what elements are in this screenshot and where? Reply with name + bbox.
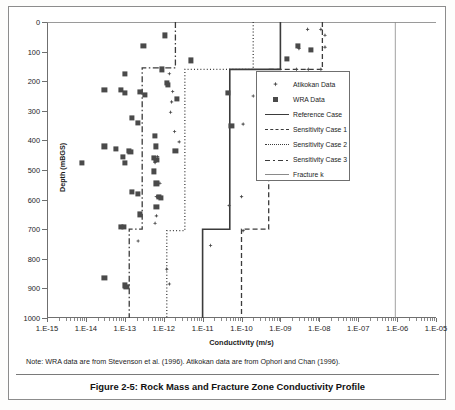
- x-tick-minor: [109, 318, 110, 321]
- square-marker: [264, 94, 290, 105]
- wra-data-point: [129, 116, 134, 121]
- y-tick-label: 700: [28, 225, 40, 234]
- wra-data-point: [142, 92, 147, 97]
- diamond-marker-glyph: [273, 82, 278, 87]
- x-tick-label: 1.E-11: [192, 324, 214, 333]
- x-tick-minor: [253, 318, 254, 321]
- y-tick-label: 200: [28, 77, 40, 86]
- x-tick: [125, 318, 126, 322]
- dotted-line-glyph: [265, 144, 289, 145]
- x-tick-minor: [354, 318, 355, 321]
- legend-item-fracture-k: Fracture k: [257, 167, 349, 182]
- x-tick-minor: [98, 318, 99, 321]
- wra-data-point: [159, 67, 164, 72]
- figure-caption: Figure 2-5: Rock Mass and Fracture Zone …: [16, 381, 439, 392]
- x-tick-minor: [391, 318, 392, 321]
- wra-data-point: [121, 224, 126, 229]
- x-tick-label: 1.E-05: [425, 324, 447, 333]
- wra-data-point: [136, 120, 141, 125]
- x-tick-minor: [226, 318, 227, 321]
- x-tick-minor: [269, 318, 270, 321]
- step-curve-sensitivity-case-2: [167, 22, 253, 318]
- wra-data-point: [188, 58, 193, 63]
- diamond-marker: [264, 79, 290, 90]
- x-tick-minor: [182, 318, 183, 321]
- x-tick-minor: [66, 318, 67, 321]
- x-tick-minor: [331, 318, 332, 321]
- x-tick-minor: [175, 318, 176, 321]
- wra-data-point: [120, 154, 125, 159]
- wra-data-point: [308, 48, 313, 53]
- y-tick-label: 1000: [24, 314, 40, 323]
- legend-label: Fracture k: [290, 171, 324, 178]
- dash-dot-line-glyph: [265, 159, 289, 161]
- x-tick-minor: [377, 318, 378, 321]
- x-tick-minor: [382, 318, 383, 321]
- x-tick-minor: [113, 318, 114, 321]
- x-tick-label: 1.E-08: [308, 324, 330, 333]
- x-tick-minor: [274, 318, 275, 321]
- x-tick: [203, 318, 204, 322]
- legend-item-sensitivity-case-2: Sensitivity Case 2: [257, 137, 349, 152]
- y-tick-label: 500: [28, 166, 40, 175]
- solid-line-glyph: [265, 114, 289, 115]
- x-tick-minor: [194, 318, 195, 321]
- wra-data-point: [80, 160, 85, 165]
- wra-data-point: [128, 150, 133, 155]
- x-tick-minor: [409, 318, 410, 321]
- wra-data-point: [154, 157, 159, 162]
- x-tick: [86, 318, 87, 322]
- square-marker-glyph: [273, 97, 278, 102]
- legend-item-wra-data: WRA Data: [257, 92, 349, 107]
- x-tick: [47, 318, 48, 322]
- wra-data-point: [285, 56, 290, 61]
- wra-data-point: [114, 147, 119, 152]
- legend-label: WRA Data: [290, 96, 325, 103]
- x-tick-minor: [421, 318, 422, 321]
- wra-data-point: [166, 82, 171, 87]
- y-tick-label: 600: [28, 195, 40, 204]
- x-tick: [242, 318, 243, 322]
- legend-item-sensitivity-case-1: Sensitivity Case 1: [257, 122, 349, 137]
- x-tick-minor: [137, 318, 138, 321]
- x-tick-label: 1.E-06: [386, 324, 408, 333]
- x-tick-minor: [416, 318, 417, 321]
- x-tick-minor: [104, 318, 105, 321]
- wra-data-point: [122, 90, 127, 95]
- x-tick: [358, 318, 359, 322]
- wra-data-point: [129, 190, 134, 195]
- x-tick-label: 1.E-15: [36, 324, 58, 333]
- x-tick-minor: [277, 318, 278, 321]
- legend-label: Sensitivity Case 1: [290, 126, 347, 133]
- wra-data-point: [173, 148, 178, 153]
- x-tick-minor: [59, 318, 60, 321]
- x-tick-minor: [191, 318, 192, 321]
- dotted-line: [264, 139, 290, 150]
- x-tick-minor: [338, 318, 339, 321]
- x-tick-minor: [313, 318, 314, 321]
- x-tick-minor: [346, 318, 347, 321]
- plot-region: Depth (mBGS) Conductivity (m/s) 01002003…: [47, 22, 436, 318]
- x-tick-minor: [152, 318, 153, 321]
- wra-data-point: [154, 181, 159, 186]
- dashed-line-glyph: [265, 129, 289, 130]
- wra-data-point: [153, 144, 158, 149]
- y-tick-label: 400: [28, 136, 40, 145]
- x-tick-minor: [292, 318, 293, 321]
- legend-item-atikokan-data: Atikokan Data: [257, 77, 349, 92]
- figure-note: Note: WRA data are from Stevenson et al.…: [26, 357, 439, 366]
- x-tick-minor: [388, 318, 389, 321]
- x-tick-minor: [230, 318, 231, 321]
- thin-solid-line: [264, 169, 290, 180]
- x-tick-minor: [70, 318, 71, 321]
- x-axis-title: Conductivity (m/s): [47, 338, 436, 347]
- wra-data-point: [229, 123, 234, 128]
- x-tick-minor: [116, 318, 117, 321]
- wra-data-point: [102, 87, 107, 92]
- x-tick-minor: [311, 318, 312, 321]
- x-tick-minor: [119, 318, 120, 321]
- x-tick: [319, 318, 320, 322]
- x-tick-label: 1.E-07: [347, 324, 369, 333]
- x-tick-minor: [77, 318, 78, 321]
- x-tick-minor: [82, 318, 83, 321]
